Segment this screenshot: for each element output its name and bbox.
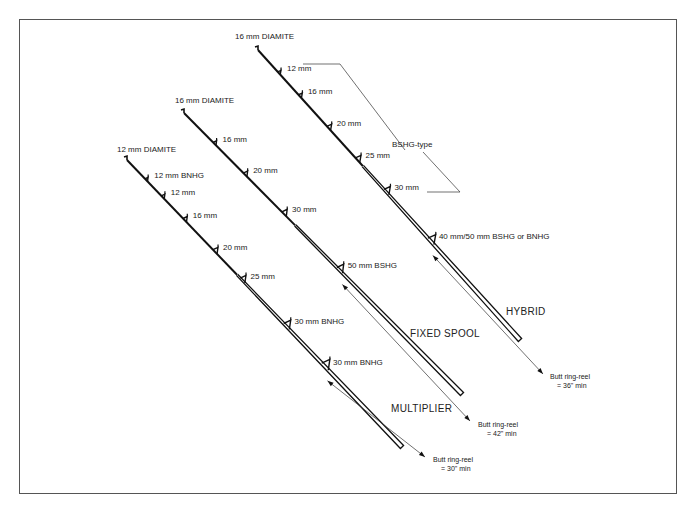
hybrid-ring-label: 25 mm bbox=[366, 151, 391, 160]
multiplier-ring-label: 30 mm BNHG bbox=[295, 317, 345, 326]
hybrid-butt-label-line2: = 36" min bbox=[557, 382, 587, 389]
fixed-spool-rod-name: FIXED SPOOL bbox=[410, 328, 480, 339]
multiplier-rod-name: MULTIPLIER bbox=[391, 403, 452, 414]
hybrid-ring-label: 20 mm bbox=[337, 119, 362, 128]
fixed-spool-ring-label: 50 mm BSHG bbox=[348, 261, 397, 270]
multiplier-ring-label: 30 mm BNHG bbox=[333, 358, 383, 367]
hybrid-guide-ring: 30 mm bbox=[384, 183, 419, 195]
fixed-spool-guide-ring: 20 mm bbox=[243, 166, 278, 177]
hybrid-tip-label: 16 mm DIAMITE bbox=[235, 32, 294, 41]
multiplier-tip-label: 12 mm DIAMITE bbox=[117, 145, 176, 154]
fixed-spool-butt-label-line1: Butt ring-reel bbox=[478, 421, 519, 429]
multiplier-guide-ring: 30 mm BNHG bbox=[284, 317, 345, 329]
multiplier-guide-ring: 12 mm bbox=[161, 188, 195, 199]
multiplier-butt-label-line2: = 30" min bbox=[441, 465, 471, 472]
hybrid-butt-label-line1: Butt ring-reel bbox=[550, 373, 591, 381]
hybrid-guide-ring: 12 mm bbox=[278, 64, 312, 74]
bshg-type-bracket: BSHG-type bbox=[303, 64, 460, 192]
hybrid-ring-label: 40 mm/50 mm BSHG or BNHG bbox=[439, 232, 550, 241]
multiplier-butt-label-line1: Butt ring-reel bbox=[433, 456, 474, 464]
hybrid-guide-ring: 20 mm bbox=[327, 119, 362, 130]
multiplier-ring-label: 16 mm bbox=[193, 211, 218, 220]
multiplier-ring-label: 20 mm bbox=[223, 243, 248, 252]
multiplier-ring-label: 25 mm bbox=[251, 272, 276, 281]
fixed-spool-measure-line bbox=[342, 284, 470, 421]
fixed-spool-tip-section bbox=[184, 113, 295, 225]
multiplier-arrowhead-end bbox=[419, 452, 425, 457]
multiplier-rod: 12 mm BNHG12 mm16 mm20 mm25 mm30 mm BNHG… bbox=[124, 156, 425, 457]
fixed-spool-tip-top bbox=[181, 109, 184, 113]
bracket-upper-line bbox=[303, 64, 405, 150]
hybrid-guide-ring: 40 mm/50 mm BSHG or BNHG bbox=[428, 232, 550, 245]
fixed-spool-guide-ring: 50 mm BSHG bbox=[337, 261, 397, 273]
fixed-spool-ring-label: 16 mm bbox=[223, 135, 248, 144]
fixed-spool-guide-ring: 16 mm bbox=[213, 135, 247, 145]
multiplier-tip-top bbox=[124, 156, 127, 160]
multiplier-guide-ring: 30 mm BNHG bbox=[322, 357, 383, 371]
multiplier-guide-ring: 20 mm bbox=[213, 243, 248, 254]
hybrid-ring-label: 12 mm bbox=[287, 64, 312, 73]
multiplier-ring-label: 12 mm bbox=[171, 188, 196, 197]
fixed-spool-ring-label: 30 mm bbox=[292, 205, 317, 214]
multiplier-arrowhead-start bbox=[327, 381, 333, 386]
multiplier-guide-ring: 12 mm BNHG bbox=[145, 171, 204, 181]
hybrid-rod-name: HYBRID bbox=[506, 306, 546, 317]
fixed-spool-guide-ring: 30 mm bbox=[282, 205, 317, 216]
rod-ring-diagram: BSHG-type 12 mm BNHG12 mm16 mm20 mm25 mm… bbox=[0, 0, 695, 514]
fixed-spool-butt-label-line2: = 42" min bbox=[487, 430, 517, 437]
hybrid-tip-top bbox=[255, 46, 258, 50]
hybrid-ring-label: 16 mm bbox=[308, 87, 333, 96]
fixed-spool-tip-label: 16 mm DIAMITE bbox=[175, 96, 234, 105]
bracket-lower-line bbox=[423, 152, 460, 192]
hybrid-ring-label: 30 mm bbox=[394, 183, 419, 192]
multiplier-ring-label: 12 mm BNHG bbox=[154, 171, 204, 180]
multiplier-measure-line bbox=[327, 381, 425, 457]
multiplier-guide-ring: 25 mm bbox=[240, 272, 275, 283]
fixed-spool-ring-label: 20 mm bbox=[253, 166, 278, 175]
hybrid-guide-ring: 16 mm bbox=[298, 87, 332, 98]
multiplier-guide-ring: 16 mm bbox=[183, 211, 217, 222]
bracket-label: BSHG-type bbox=[392, 140, 433, 149]
hybrid-guide-ring: 25 mm bbox=[355, 151, 390, 162]
